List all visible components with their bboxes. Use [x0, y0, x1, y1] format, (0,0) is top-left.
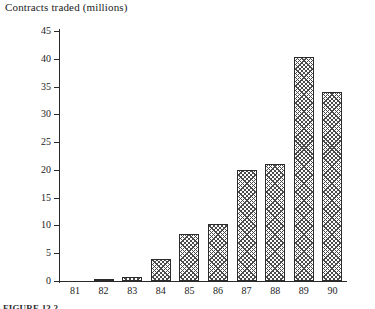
y-tick-mark — [54, 225, 59, 226]
y-tick-mark — [54, 114, 59, 115]
chart-title: Contracts traded (millions) — [5, 1, 128, 13]
y-tick-mark — [54, 281, 59, 282]
y-tick-mark — [54, 170, 59, 171]
y-tick-label: 10 — [41, 220, 51, 230]
y-tick-label: 25 — [41, 137, 51, 147]
y-tick-label: 30 — [41, 109, 51, 119]
bar-86 — [208, 224, 228, 281]
y-tick-label: 45 — [41, 26, 51, 36]
x-tick-label-87: 87 — [242, 286, 252, 296]
x-tick-label-81: 81 — [70, 286, 80, 296]
y-tick-label: 40 — [41, 54, 51, 64]
bar-88 — [265, 164, 285, 281]
y-tick-label: 35 — [41, 82, 51, 92]
y-tick-mark — [54, 253, 59, 254]
bar-85 — [179, 234, 199, 281]
y-tick-mark — [54, 87, 59, 88]
y-tick-label: 20 — [41, 165, 51, 175]
x-tick-label-89: 89 — [299, 286, 309, 296]
x-tick-label-84: 84 — [156, 286, 166, 296]
bar-84 — [151, 259, 171, 281]
bar-83 — [122, 277, 142, 281]
y-tick-mark — [54, 31, 59, 32]
y-tick-label: 5 — [46, 248, 51, 258]
x-tick-label-82: 82 — [99, 286, 109, 296]
x-tick-label-88: 88 — [270, 286, 280, 296]
x-tick-label-86: 86 — [213, 286, 223, 296]
y-tick-mark — [54, 142, 59, 143]
y-tick-label: 0 — [46, 276, 51, 286]
plot-area: 051015202530354045 — [59, 31, 359, 281]
bar-90 — [322, 92, 342, 281]
bar-82 — [94, 279, 114, 281]
figure-caption: FIGURE 13.2 — [3, 303, 58, 309]
figure-bar-chart: Contracts traded (millions) 051015202530… — [0, 0, 375, 309]
y-tick-label: 15 — [41, 193, 51, 203]
x-tick-label-90: 90 — [327, 286, 337, 296]
bar-89 — [294, 57, 314, 281]
x-axis-line — [59, 281, 347, 282]
x-tick-label-85: 85 — [184, 286, 194, 296]
x-tick-label-83: 83 — [127, 286, 137, 296]
bar-87 — [237, 170, 257, 281]
y-tick-mark — [54, 198, 59, 199]
y-tick-mark — [54, 59, 59, 60]
